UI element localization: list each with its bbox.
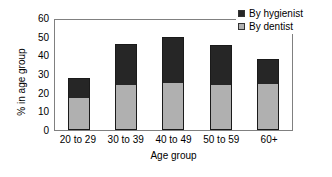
legend-item[interactable]: By hygienist — [238, 7, 303, 20]
x-axis-tick-label: 30 to 39 — [103, 134, 149, 146]
legend-swatch-icon — [238, 10, 245, 17]
y-axis-tick-label: 50 — [22, 33, 49, 43]
bars-layer — [55, 20, 292, 130]
bar-segment-dentist[interactable] — [115, 85, 137, 130]
bar-segment-hygienist[interactable] — [162, 37, 184, 84]
bar-segment-dentist[interactable] — [68, 98, 90, 130]
bar-group[interactable] — [162, 20, 184, 130]
bar-segment-hygienist[interactable] — [210, 45, 232, 85]
bar-group[interactable] — [115, 20, 137, 130]
x-axis-tick-labels: 20 to 2930 to 3940 to 4950 to 5960+ — [54, 134, 293, 148]
y-axis-tick-label: 0 — [22, 126, 49, 136]
x-axis-title: Age group — [54, 150, 293, 162]
stacked-bar-chart: % in age group 0102030405060 20 to 2930 … — [0, 0, 332, 177]
chart-legend: By hygienistBy dentist — [236, 6, 305, 34]
bar-segment-hygienist[interactable] — [257, 59, 279, 84]
x-axis-tick-label: 60+ — [246, 134, 292, 146]
bar-group[interactable] — [257, 20, 279, 130]
plot-area — [54, 19, 293, 131]
bar-segment-dentist[interactable] — [257, 84, 279, 130]
bar-segment-dentist[interactable] — [162, 83, 184, 130]
bar-group[interactable] — [210, 20, 232, 130]
y-axis-tick-label: 30 — [22, 70, 49, 80]
bar-segment-hygienist[interactable] — [115, 44, 137, 85]
legend-item[interactable]: By dentist — [238, 20, 303, 33]
y-axis-tick-label: 60 — [22, 14, 49, 24]
bar-segment-dentist[interactable] — [210, 85, 232, 130]
legend-label: By hygienist — [249, 8, 303, 19]
bar-group[interactable] — [68, 20, 90, 130]
y-axis-tick-label: 20 — [22, 89, 49, 99]
x-axis-tick-label: 20 to 29 — [55, 134, 101, 146]
x-axis-tick-label: 50 to 59 — [198, 134, 244, 146]
legend-swatch-icon — [238, 23, 245, 30]
x-axis-tick-label: 40 to 49 — [150, 134, 196, 146]
y-axis-tick-label: 40 — [22, 51, 49, 61]
y-axis-tick-labels: 0102030405060 — [22, 0, 49, 177]
bar-segment-hygienist[interactable] — [68, 78, 90, 99]
y-axis-tick-label: 10 — [22, 107, 49, 117]
legend-label: By dentist — [249, 21, 293, 32]
